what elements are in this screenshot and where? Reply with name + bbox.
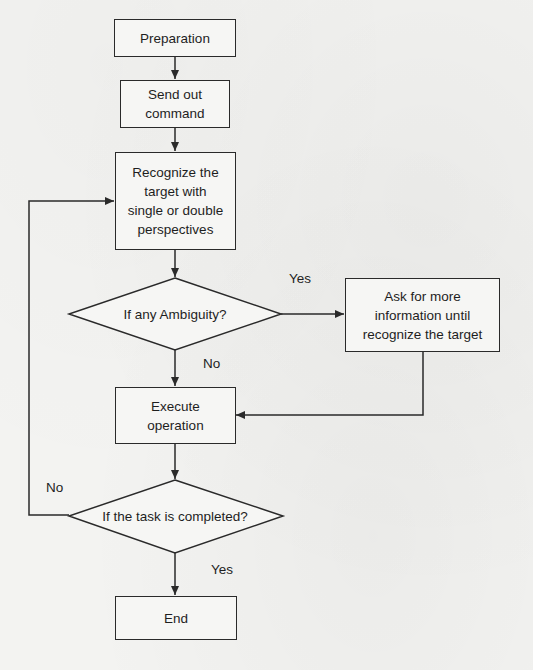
- arrow-completed-no-loop: [29, 201, 114, 515]
- edge-label-ambiguity-no: No: [203, 356, 220, 371]
- node-execute-operation: Execute operation: [115, 387, 236, 444]
- node-send-command: Send out command: [120, 80, 230, 128]
- node-recognize-target: Recognize the target with single or doub…: [115, 152, 236, 250]
- flowchart-canvas: Preparation Send out command Recognize t…: [0, 0, 533, 670]
- edge-label-completed-no: No: [46, 480, 63, 495]
- node-task-completed-check: If the task is completed?: [85, 504, 265, 528]
- node-ambiguity-check: If any Ambiguity?: [95, 302, 255, 326]
- node-end: End: [115, 596, 237, 640]
- edge-label-ambiguity-yes: Yes: [289, 271, 311, 286]
- edge-label-completed-yes: Yes: [211, 562, 233, 577]
- node-ask-more-info: Ask for more information until recognize…: [345, 278, 500, 352]
- arrow-ask-to-execute: [236, 352, 423, 415]
- node-preparation: Preparation: [114, 19, 236, 57]
